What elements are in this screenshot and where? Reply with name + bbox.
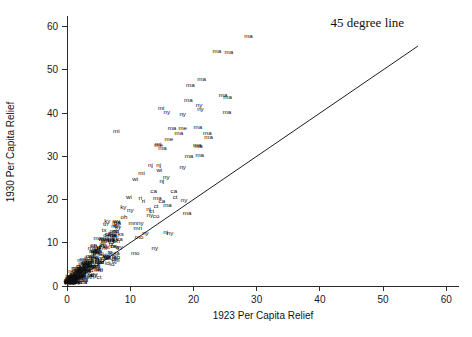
- data-point-label: nj: [112, 257, 117, 264]
- data-point-label: ma: [194, 142, 203, 149]
- plot-canvas: 010203040506001020304050601923 Per Capit…: [0, 0, 472, 337]
- data-point-label: nj: [148, 161, 153, 168]
- data-point-label: ma: [158, 144, 167, 151]
- data-point-label: wi: [131, 175, 138, 182]
- x-tick-label: 40: [314, 294, 326, 305]
- data-point-label: ny: [179, 163, 186, 170]
- data-point-label: ma: [175, 129, 184, 136]
- y-tick-label: 60: [47, 21, 59, 32]
- x-axis-title: 1923 Per Capita Relief: [213, 310, 314, 321]
- data-point-label: ny: [181, 196, 188, 203]
- y-tick-label: 10: [47, 237, 59, 248]
- data-point-label: ct: [173, 193, 178, 200]
- y-tick-label: 30: [47, 151, 59, 162]
- y-tick-label: 50: [47, 64, 59, 75]
- data-point-label: ny: [167, 229, 174, 236]
- data-point-label: mo: [135, 233, 144, 240]
- data-point-label: mi: [113, 127, 120, 134]
- data-point-label: in: [108, 236, 113, 243]
- data-point-label: ma: [204, 133, 213, 140]
- data-point-label: ks: [71, 272, 77, 279]
- data-point-label: ma: [223, 108, 232, 115]
- y-tick-label: 20: [47, 194, 59, 205]
- data-point-label: ma: [244, 32, 253, 39]
- data-point-label: ma: [223, 93, 232, 100]
- data-point-label: wi: [125, 193, 132, 200]
- data-point-label: nj: [159, 177, 164, 184]
- x-tick-label: 50: [378, 294, 390, 305]
- y-axis-title: 1930 Per Capita Relief: [5, 101, 16, 202]
- x-tick-label: 60: [441, 294, 453, 305]
- reference-line-label: 45 degree line: [331, 15, 405, 30]
- data-point-label: ct: [154, 202, 159, 209]
- data-point-label: pa: [114, 219, 121, 226]
- data-point-label: ma: [185, 152, 194, 159]
- data-point-label: ny: [197, 105, 204, 112]
- data-point-label: nm: [71, 264, 80, 271]
- data-point-label: mi: [138, 169, 145, 176]
- x-tick-label: 10: [125, 294, 137, 305]
- data-point-label: wi: [155, 166, 162, 173]
- y-tick-label: 0: [52, 281, 58, 292]
- data-point-label: ma: [195, 151, 204, 158]
- data-point-label: wv: [97, 235, 106, 242]
- data-point-label: ny: [152, 244, 159, 251]
- data-point-label: ny: [179, 110, 186, 117]
- data-point-label: ma: [184, 96, 193, 103]
- data-point-label: ma: [197, 75, 206, 82]
- data-point-label: ma: [213, 47, 222, 54]
- x-tick-label: 20: [188, 294, 200, 305]
- data-point-label: ar: [112, 236, 118, 243]
- data-point-label: oh: [120, 213, 127, 220]
- data-point-label: il: [84, 254, 87, 261]
- data-point-label: ks: [95, 245, 101, 252]
- data-point-label: ri: [142, 197, 145, 204]
- data-point-label: ma: [183, 209, 192, 216]
- data-point-label: ma: [186, 81, 195, 88]
- scatter-plot-figure: 010203040506001020304050601923 Per Capit…: [0, 0, 472, 337]
- data-point-label: ma: [225, 48, 234, 55]
- data-point-label: co: [153, 212, 160, 219]
- data-point-label: ny: [127, 206, 134, 213]
- data-point-label: in: [91, 257, 96, 264]
- data-point-label: ky: [104, 217, 111, 224]
- data-point-label: ny: [164, 108, 171, 115]
- forty-five-degree-line: [67, 46, 418, 286]
- y-tick-label: 40: [47, 108, 59, 119]
- data-point-label: nh: [88, 273, 95, 280]
- data-point-label: ca: [150, 187, 157, 194]
- data-point-label: me: [164, 135, 173, 142]
- x-tick-label: 30: [251, 294, 263, 305]
- data-point-label: ma: [163, 201, 172, 208]
- dense-point-cluster: deiddewytnmdnmksmosdscscmamninflidkynhco…: [63, 217, 124, 285]
- data-point-label: ne: [85, 261, 92, 268]
- data-point-label: or: [110, 227, 116, 234]
- x-tick-label: 0: [64, 294, 70, 305]
- data-point-label: wv: [95, 258, 104, 265]
- data-point-label: ma: [194, 123, 203, 130]
- data-point-label: mo: [131, 249, 140, 256]
